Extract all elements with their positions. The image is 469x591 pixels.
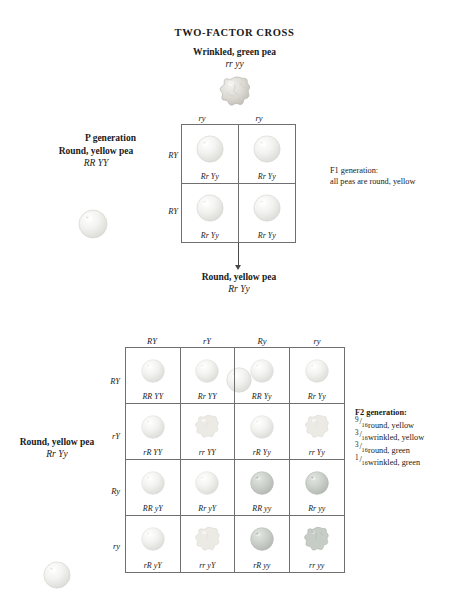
f2-cell-genotype-2-2: RR yy bbox=[235, 504, 289, 513]
f2-col-gamete-3: ry bbox=[292, 336, 342, 346]
f2-punnett-square: RR YY Rr YY RR Yy Rr Yy rR YY rr YY rR Y… bbox=[125, 347, 345, 573]
f1-punnett-square: Rr Yy Rr Yy Rr Yy Rr Yy bbox=[181, 124, 296, 243]
f1-offspring-genotype: Rr Yy bbox=[168, 284, 310, 294]
f2-ratio-text-1: wrinkled, yellow bbox=[368, 433, 424, 442]
f2-parent-genotype: Rr Yy bbox=[5, 449, 109, 459]
f2-ratio-text-0: round, yellow bbox=[368, 421, 414, 430]
f2-cell-3-1[interactable]: rr yY bbox=[181, 516, 236, 572]
f2-cell-genotype-2-1: Rr yY bbox=[181, 504, 235, 513]
f2-row-gamete-1: rY bbox=[102, 431, 120, 441]
f2-cell-2-0[interactable]: RR yY bbox=[126, 460, 181, 516]
f2-ratio-den-3: 16 bbox=[362, 458, 368, 469]
f1-cell-1-0[interactable]: Rr Yy bbox=[182, 184, 239, 243]
f2-cell-pea-1-1 bbox=[181, 406, 235, 447]
f2-cell-3-3[interactable]: rr yy bbox=[290, 516, 345, 572]
f1-to-f2-arrow-head bbox=[235, 265, 241, 270]
f2-cell-pea-3-3 bbox=[290, 518, 345, 560]
f1-cell-genotype-1-1: Rr Yy bbox=[239, 231, 296, 240]
f2-ratio-num-1: 3 bbox=[355, 428, 359, 439]
f2-cell-genotype-3-3: rr yy bbox=[290, 561, 345, 570]
f2-cell-1-0[interactable]: rR YY bbox=[126, 404, 181, 460]
f2-cell-pea-0-2 bbox=[235, 350, 289, 391]
f2-ratio-den-2: 16 bbox=[362, 445, 368, 456]
f2-cell-1-2[interactable]: rR Yy bbox=[235, 404, 290, 460]
f2-cell-genotype-0-1: Rr YY bbox=[181, 392, 235, 401]
f2-ratio-row-2: 3/16round, green bbox=[355, 444, 424, 457]
f1-cell-genotype-0-0: Rr Yy bbox=[182, 172, 238, 181]
f2-cell-genotype-1-2: rR Yy bbox=[235, 448, 289, 457]
f2-ratio-num-2: 3 bbox=[355, 440, 359, 451]
f2-cell-pea-3-1 bbox=[181, 518, 235, 560]
top-parent-phenotype: Wrinkled, green pea bbox=[147, 47, 322, 57]
f2-ratio-row-3: 1/16wrinkled, green bbox=[355, 456, 424, 469]
f2-generation-note: F2 generation: 9/16round, yellow 3/16wri… bbox=[355, 408, 424, 469]
f2-cell-pea-3-0 bbox=[126, 518, 180, 560]
f1-row-gamete-1: RY bbox=[160, 206, 178, 216]
f2-ratio-text-3: wrinkled, green bbox=[368, 458, 420, 467]
f1-cell-genotype-1-0: Rr Yy bbox=[182, 231, 238, 240]
f2-parent-phenotype: Round, yellow pea bbox=[5, 437, 109, 447]
f2-cell-1-1[interactable]: rr YY bbox=[181, 404, 236, 460]
f2-cell-pea-0-1 bbox=[181, 350, 235, 391]
f2-ratio-fraction-2: 3/16 bbox=[355, 444, 368, 453]
f1-col-gamete-0: ry bbox=[186, 113, 218, 123]
f2-ratio-fraction-0: 9/16 bbox=[355, 419, 368, 428]
f2-col-gamete-0: RY bbox=[127, 336, 177, 346]
f2-cell-pea-0-3 bbox=[290, 350, 345, 391]
f1-cell-1-1[interactable]: Rr Yy bbox=[239, 184, 296, 243]
f2-ratio-den-1: 16 bbox=[362, 433, 368, 444]
f2-cell-2-1[interactable]: Rr yY bbox=[181, 460, 236, 516]
f2-cell-pea-0-0 bbox=[126, 350, 180, 391]
f2-cell-genotype-3-1: rr yY bbox=[181, 561, 235, 570]
f1-cell-pea-0-1 bbox=[239, 127, 296, 171]
f2-cell-pea-2-1 bbox=[181, 462, 235, 503]
f2-row-gamete-2: Ry bbox=[102, 486, 120, 496]
f2-cell-genotype-1-1: rr YY bbox=[181, 448, 235, 457]
f2-cell-0-1[interactable]: Rr YY bbox=[181, 348, 236, 404]
f2-col-gamete-2: Ry bbox=[237, 336, 287, 346]
f2-cell-pea-3-2 bbox=[235, 518, 289, 560]
p-generation-label: P generation bbox=[85, 133, 136, 143]
f2-cell-genotype-3-0: rR yY bbox=[126, 561, 180, 570]
f2-cell-genotype-1-0: rR YY bbox=[126, 448, 180, 457]
f2-cell-0-2[interactable]: RR Yy bbox=[235, 348, 290, 404]
f1-note-line2: all peas are round, yellow bbox=[330, 177, 415, 188]
f1-cell-genotype-0-1: Rr Yy bbox=[239, 172, 296, 181]
page-title: TWO-FACTOR CROSS bbox=[0, 27, 469, 38]
f2-cell-pea-1-2 bbox=[235, 406, 289, 447]
f2-cell-pea-1-3 bbox=[290, 406, 345, 447]
f2-cell-genotype-0-0: RR YY bbox=[126, 392, 180, 401]
f2-cell-0-0[interactable]: RR YY bbox=[126, 348, 181, 404]
f1-cell-0-0[interactable]: Rr Yy bbox=[182, 125, 239, 184]
f2-ratio-text-2: round, green bbox=[368, 446, 410, 455]
f1-col-gamete-1: ry bbox=[243, 113, 275, 123]
f2-cell-2-2[interactable]: RR yy bbox=[235, 460, 290, 516]
f2-cell-genotype-0-3: Rr Yy bbox=[290, 392, 345, 401]
f1-cell-pea-1-1 bbox=[239, 186, 296, 231]
f2-note-heading: F2 generation: bbox=[355, 408, 424, 419]
f1-generation-note: F1 generation: all peas are round, yello… bbox=[330, 166, 415, 187]
f2-cell-2-3[interactable]: Rr yy bbox=[290, 460, 345, 516]
f1-cell-0-1[interactable]: Rr Yy bbox=[239, 125, 296, 184]
f2-cell-1-3[interactable]: rr Yy bbox=[290, 404, 345, 460]
f2-cell-genotype-0-2: RR Yy bbox=[235, 392, 289, 401]
f2-ratio-den-0: 16 bbox=[362, 420, 368, 431]
f2-ratio-fraction-3: 1/16 bbox=[355, 456, 368, 465]
f2-ratio-num-3: 1 bbox=[355, 453, 359, 464]
f2-ratio-num-0: 9 bbox=[355, 415, 359, 426]
top-parent-genotype: rr yy bbox=[147, 59, 322, 69]
f2-cell-3-2[interactable]: rR yy bbox=[235, 516, 290, 572]
f2-cell-0-3[interactable]: Rr Yy bbox=[290, 348, 345, 404]
f1-to-f2-arrow-line bbox=[238, 243, 239, 267]
f1-cell-pea-1-0 bbox=[182, 186, 238, 231]
left-parent-phenotype: Round, yellow pea bbox=[26, 146, 166, 156]
top-parent-pea bbox=[217, 74, 469, 110]
f1-row-gamete-0: RY bbox=[160, 150, 178, 160]
left-parent-genotype: RR YY bbox=[26, 158, 166, 168]
f2-col-gamete-1: rY bbox=[182, 336, 232, 346]
f2-cell-3-0[interactable]: rR yY bbox=[126, 516, 181, 572]
f2-cell-genotype-2-0: RR yY bbox=[126, 504, 180, 513]
f2-cell-genotype-1-3: rr Yy bbox=[290, 448, 345, 457]
f2-cell-pea-2-3 bbox=[290, 462, 345, 503]
f1-note-line1: F1 generation: bbox=[330, 166, 415, 177]
